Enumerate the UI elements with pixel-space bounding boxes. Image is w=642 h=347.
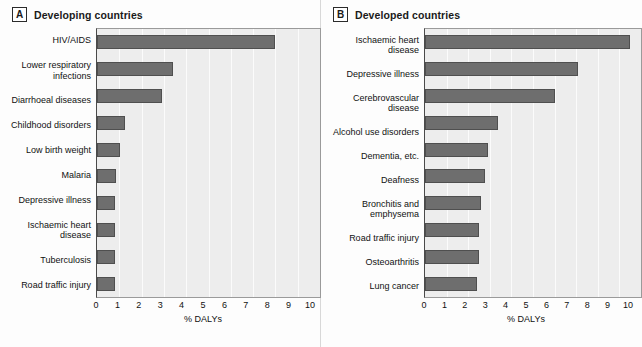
bar [425,277,477,291]
bar-track [425,196,641,210]
category-label: Bronchitis and emphysema [321,199,424,220]
chart-a-category-labels: HIV/AIDSLower respiratory infectionsDiar… [0,24,96,324]
bar [97,223,115,237]
x-tick-label: 8 [585,300,590,310]
bar-track [425,143,641,157]
x-tick-label: 4 [503,300,508,310]
x-tick-label: 6 [544,300,549,310]
bar-track [97,143,320,157]
x-tick-label: 1 [115,300,120,310]
category-label: Depressive illness [0,195,96,206]
bar-track [425,250,641,264]
bar [425,62,578,76]
panel-title: Developed countries [355,9,460,21]
bar-track [97,62,320,76]
bar [425,250,479,264]
bar-track [97,89,320,103]
chart-b-x-axis: 012345678910 % DALYs [424,298,628,324]
category-label: Osteoarthritis [321,257,424,268]
category-label: Malaria [0,170,96,181]
figure-caption-cropped [0,339,642,347]
chart-a: HIV/AIDSLower respiratory infectionsDiar… [0,24,321,324]
panel-b: B Developed countries Ischaemic heart di… [321,0,642,347]
category-label: Tuberculosis [0,255,96,266]
bar-track [425,169,641,183]
bar-track [97,196,320,210]
x-tick-label: 3 [158,300,163,310]
category-label: Cerebrovascular disease [321,93,424,114]
bar [97,250,115,264]
category-label: Childhood disorders [0,120,96,131]
x-tick-label: 7 [564,300,569,310]
bar [97,89,162,103]
bar-track [425,277,641,291]
bar-track [425,89,641,103]
x-tick-label: 5 [200,300,205,310]
category-label: Road traffic injury [0,280,96,291]
bar-track [425,223,641,237]
bar [97,143,120,157]
x-tick-label: 2 [462,300,467,310]
bar-track [97,277,320,291]
x-tick-label: 10 [305,300,315,310]
panel-b-header: B Developed countries [321,0,642,22]
chart-a-rows: HIV/AIDSLower respiratory infectionsDiar… [0,24,321,324]
bar-track [425,62,641,76]
x-tick-label: 0 [421,300,426,310]
x-tick-label: 0 [93,300,98,310]
category-label: Road traffic injury [321,233,424,244]
category-label: Lung cancer [321,281,424,292]
panel-a-header: A Developing countries [0,0,320,22]
chart-b-plot-area [424,28,642,298]
x-tick-label: 1 [442,300,447,310]
chart-b-axis-title: % DALYs [424,314,628,324]
bar [425,116,498,130]
bar-track [97,35,320,49]
bar [425,223,479,237]
chart-b-rows: Ischaemic heart diseaseDepressive illnes… [321,24,642,324]
bar [97,62,173,76]
bar [97,277,115,291]
panel-letter-badge: A [12,7,27,22]
category-label: HIV/AIDS [0,35,96,46]
bar-track [425,35,641,49]
category-label: Deafness [321,175,424,186]
bar [97,169,116,183]
category-label: Depressive illness [321,69,424,80]
x-tick-label: 7 [243,300,248,310]
category-label: Ischaemic heart disease [321,35,424,56]
category-label: Dementia, etc. [321,151,424,162]
chart-a-bars [97,29,320,297]
bar [425,143,488,157]
x-tick-label: 9 [286,300,291,310]
x-tick-label: 10 [623,300,633,310]
bar-track [97,116,320,130]
x-tick-label: 6 [222,300,227,310]
panel-a: A Developing countries HIV/AIDSLower res… [0,0,321,347]
figure-two-panel-bar-charts: A Developing countries HIV/AIDSLower res… [0,0,642,347]
bar-track [425,116,641,130]
bar [97,35,275,49]
x-tick-label: 9 [605,300,610,310]
x-tick-label: 3 [483,300,488,310]
chart-b-plot-column [424,24,642,324]
x-tick-label: 2 [136,300,141,310]
bar [425,169,485,183]
bar-track [97,223,320,237]
bar [425,35,630,49]
category-label: Ischaemic heart disease [0,220,96,241]
chart-b: Ischaemic heart diseaseDepressive illnes… [321,24,642,324]
bar-track [97,169,320,183]
panel-title: Developing countries [34,9,143,21]
chart-a-plot-column [96,24,321,324]
chart-a-plot-area [96,28,321,298]
category-label: Diarrhoeal diseases [0,95,96,106]
x-tick-label: 5 [523,300,528,310]
category-label: Alcohol use disorders [321,127,424,138]
category-label: Low birth weight [0,145,96,156]
bar [97,196,115,210]
bar [425,89,555,103]
panel-letter-badge: B [333,7,348,22]
bar [97,116,125,130]
bar-track [97,250,320,264]
